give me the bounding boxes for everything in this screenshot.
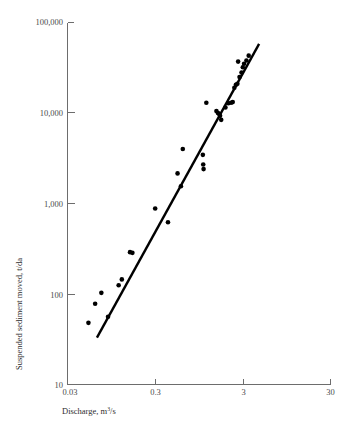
data-point xyxy=(244,58,249,63)
y-axis-ticks xyxy=(68,113,75,295)
scatter-plot-svg: 100,000 10,000 1,000 100 10 0.03 0.3 3 3… xyxy=(0,0,346,428)
chart-figure: 100,000 10,000 1,000 100 10 0.03 0.3 3 3… xyxy=(0,0,346,428)
data-point xyxy=(93,301,98,306)
data-point xyxy=(179,184,184,189)
data-point xyxy=(239,70,244,75)
x-axis-title-tail: /s xyxy=(110,406,116,416)
y-axis-tick-labels: 100,000 10,000 1,000 100 10 xyxy=(35,17,63,390)
y-axis-title-text: Suspended sediment moved, t/da xyxy=(14,258,24,370)
data-point xyxy=(219,118,224,123)
y-axis-title: Suspended sediment moved, t/da xyxy=(14,258,24,370)
y-ticklabel-100000: 100,000 xyxy=(35,17,63,27)
data-point xyxy=(120,277,125,282)
data-point xyxy=(204,100,209,105)
x-axis-title-base: Discharge, m xyxy=(62,406,108,416)
data-point xyxy=(230,100,235,105)
data-point xyxy=(106,314,111,319)
data-point xyxy=(181,147,186,152)
axis-spines xyxy=(68,23,331,385)
x-axis-title: Discharge, m3/s xyxy=(62,406,116,417)
data-point xyxy=(99,291,104,296)
y-ticklabel-1000: 1,000 xyxy=(44,199,63,209)
data-point xyxy=(130,251,135,256)
data-point xyxy=(153,206,158,211)
data-point xyxy=(201,162,206,167)
data-point xyxy=(116,283,121,288)
x-ticklabel-30: 30 xyxy=(326,387,335,397)
data-point xyxy=(201,167,206,172)
data-point xyxy=(175,171,180,176)
data-point xyxy=(235,82,240,87)
y-ticklabel-100: 100 xyxy=(50,290,63,300)
svg-text:Discharge, m3/s: Discharge, m3/s xyxy=(62,406,116,417)
data-point xyxy=(218,114,223,119)
data-point xyxy=(86,321,91,326)
x-axis-tick-labels: 0.03 0.3 3 30 xyxy=(63,387,335,397)
data-point xyxy=(236,59,241,64)
data-point xyxy=(201,153,206,158)
scatter-points-group xyxy=(86,53,251,325)
x-axis-ticks xyxy=(156,379,331,385)
data-point xyxy=(237,75,242,80)
x-ticklabel-0.03: 0.03 xyxy=(63,387,78,397)
data-point xyxy=(246,53,251,58)
plot-axes xyxy=(68,23,331,385)
y-ticklabel-10000: 10,000 xyxy=(40,108,63,118)
data-point xyxy=(166,220,171,225)
x-ticklabel-0.3: 0.3 xyxy=(150,387,161,397)
x-ticklabel-3: 3 xyxy=(241,387,245,397)
data-point xyxy=(223,105,228,110)
